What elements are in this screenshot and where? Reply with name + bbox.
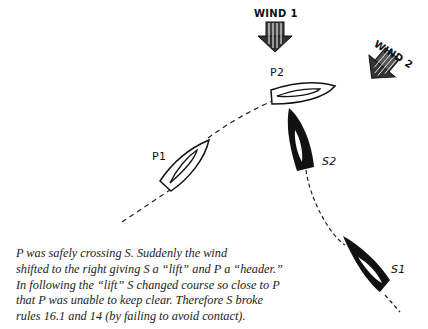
s2-label: S2	[322, 155, 337, 168]
caption-line: shifted to the right giving S a “lift” a…	[16, 262, 376, 278]
boat-p1-icon	[160, 140, 209, 191]
p2-label: P2	[270, 66, 284, 79]
wind1-arrow-icon	[258, 22, 292, 52]
p1-label: P1	[152, 150, 166, 163]
caption-line: In following the “lift” S changed course…	[16, 278, 376, 294]
caption: P was safely crossing S. Suddenly the wi…	[16, 246, 376, 325]
s1-label: S1	[391, 263, 406, 276]
wind1-label: WIND 1	[254, 8, 298, 19]
boat-p2-icon	[271, 83, 335, 104]
boat-s2-icon	[288, 108, 314, 171]
caption-line: that P was unable to keep clear. Therefo…	[16, 293, 376, 309]
caption-line: rules 16.1 and 14 (by failing to avoid c…	[16, 309, 376, 325]
caption-line: P was safely crossing S. Suddenly the wi…	[16, 246, 376, 262]
